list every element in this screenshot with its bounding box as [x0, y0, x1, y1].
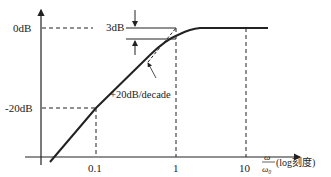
x-label-suffix: (log刻度): [276, 156, 315, 169]
x-label-denominator: ω₀: [262, 164, 271, 174]
label-0db: 0dB: [13, 22, 31, 34]
x-label-numerator: ω: [264, 152, 270, 162]
label-3db: 3dB: [106, 21, 124, 33]
tick-0.1: 0.1: [88, 162, 102, 174]
tick-1: 1: [173, 162, 179, 174]
tick-10: 10: [239, 162, 251, 174]
slope-pointer: [148, 63, 156, 78]
label-minus20db: -20dB: [5, 102, 33, 114]
label-slope: +20dB/decade: [110, 89, 171, 100]
bode-plot: 0dB -20dB 3dB +20dB/decade 0.1 1 10 ω ω₀…: [0, 0, 331, 177]
